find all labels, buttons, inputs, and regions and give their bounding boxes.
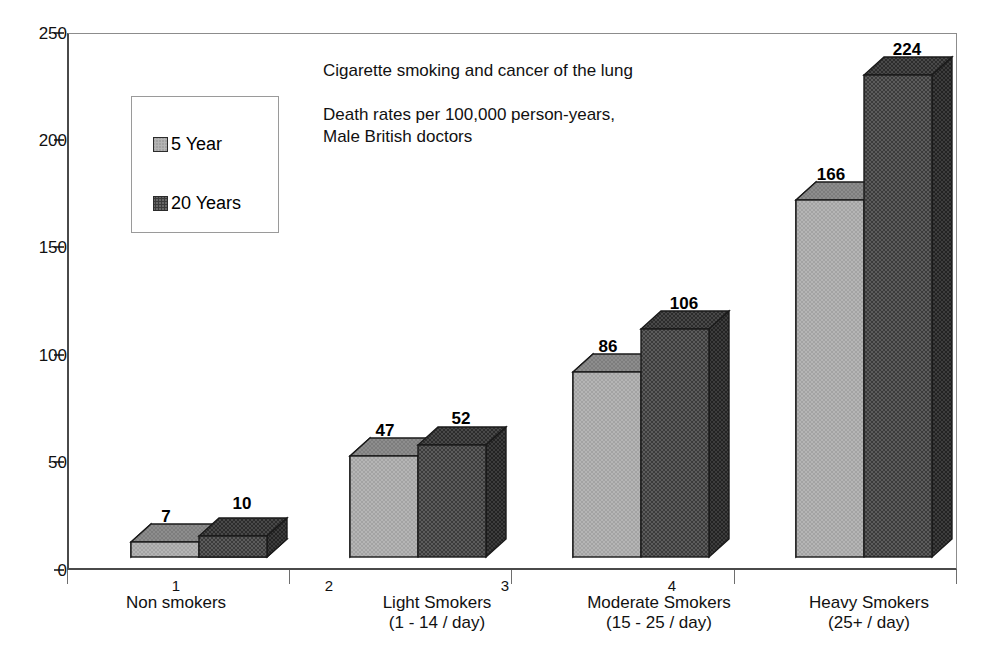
x-tick-number: 2 — [325, 578, 333, 593]
x-category-label-heavy-smokers: Heavy Smokers (25+ / day) — [809, 593, 929, 633]
x-tick-number: 1 — [172, 578, 180, 593]
x-category-sublabel: (25+ / day) — [809, 613, 929, 633]
x-category-label-light-smokers: Light Smokers (1 - 14 / day) — [383, 593, 492, 633]
x-category-name: Moderate Smokers — [587, 593, 731, 612]
y-tick-label: 250 — [21, 25, 67, 42]
x-axis — [0, 570, 988, 586]
bar-value-label: 224 — [893, 41, 921, 58]
x-category-sublabel: (15 - 25 / day) — [587, 613, 731, 633]
legend-item-20-years: 20 Years — [153, 194, 241, 212]
legend-swatch-icon — [153, 196, 168, 211]
legend: 5 Year 20 Years — [131, 96, 279, 233]
chart-subtitle-line-1: Death rates per 100,000 person-years, — [323, 104, 633, 126]
y-tick-label: 50 — [21, 454, 67, 471]
bar-value-label: 52 — [452, 410, 471, 427]
y-tick-label: 200 — [21, 132, 67, 149]
chart-title: Cigarette smoking and cancer of the lung — [323, 60, 633, 82]
bar-value-label: 86 — [599, 338, 618, 355]
legend-swatch-icon — [153, 137, 168, 152]
x-category-sublabel: (1 - 14 / day) — [383, 613, 492, 633]
bar-value-label: 10 — [233, 495, 252, 512]
bar-value-label: 7 — [161, 508, 170, 525]
y-axis: 250 200 150 100 50 0 — [0, 0, 67, 663]
x-category-name: Heavy Smokers — [809, 593, 929, 612]
chart-title-block: Cigarette smoking and cancer of the lung… — [323, 60, 633, 148]
x-category-name: Light Smokers — [383, 593, 492, 612]
x-category-label-non-smokers: Non smokers — [126, 593, 226, 613]
y-tick-label: 100 — [21, 347, 67, 364]
y-tick-label: 150 — [21, 239, 67, 256]
chart-subtitle-line-2: Male British doctors — [323, 126, 633, 148]
x-tick-number: 4 — [668, 578, 676, 593]
bar-value-label: 47 — [376, 422, 395, 439]
x-category-label-moderate-smokers: Moderate Smokers (15 - 25 / day) — [587, 593, 731, 633]
legend-item-label: 5 Year — [171, 135, 222, 153]
bar-value-label: 166 — [817, 166, 845, 183]
x-tick-number: 3 — [501, 578, 509, 593]
x-category-name: Non smokers — [126, 593, 226, 612]
legend-item-5-year: 5 Year — [153, 135, 222, 153]
bar-value-label: 106 — [670, 295, 698, 312]
legend-item-label: 20 Years — [171, 194, 241, 212]
bar-chart-figure: 250 200 150 100 50 0 Cigarette smoking a… — [0, 0, 988, 663]
